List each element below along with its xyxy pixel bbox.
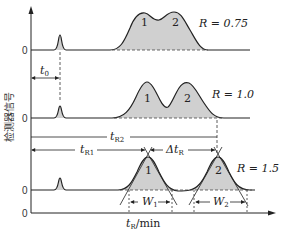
peak-2-label: 2 [215,164,222,177]
retention-time-annotations: tR2 tR1 ΔtR [31,120,217,157]
chromatogram-r075: 0 1 2 R = 0.75 [22,12,250,56]
peaks-fill [110,12,208,50]
delta-tR-label: ΔtR [165,143,184,157]
chromatography-resolution-diagram: 检测器信号 0 tR/min 0 1 2 R = 0.75 t0 0 1 2 R… [0,0,283,229]
y-axis [29,6,34,213]
tR1-label: tR1 [80,143,94,157]
baseline-zero-label: 0 [22,45,28,56]
t0-annotation: t0 [32,52,60,100]
peak-2-label: 2 [172,16,179,29]
baseline-zero-label: 0 [22,113,28,124]
y-axis-arrow-icon [29,6,34,14]
x-axis-zero-label: 0 [22,208,28,219]
x-axis-label: tR/min [126,217,160,229]
peak-1-label: 1 [145,164,152,177]
dead-time-peak-fill [54,35,66,50]
baseline-zero-label: 0 [22,185,28,196]
x-axis [31,211,276,216]
W2-label: W2 [213,195,229,209]
resolution-label: R = 1.5 [236,162,279,175]
x-axis-arrow-icon [268,211,276,216]
chromatogram-r10: 0 1 2 R = 1.0 [22,82,254,124]
t0-label: t0 [40,64,49,78]
peaks-fill [112,82,224,118]
W1-label: W1 [142,195,158,209]
resolution-label: R = 0.75 [198,17,248,30]
peak-2-label: 2 [184,92,191,105]
peak-1-label: 1 [144,92,151,105]
y-axis-label: 检测器信号 [3,92,15,142]
peak-width-annotations: W1 W2 [129,190,247,213]
tR2-label: tR2 [110,130,124,144]
resolution-label: R = 1.0 [211,88,254,101]
peak-1-label: 1 [141,16,148,29]
